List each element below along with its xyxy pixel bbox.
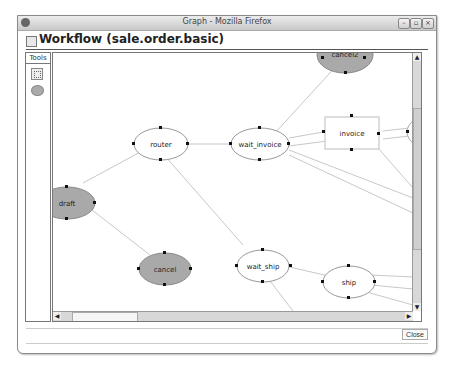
vertical-scrollbar[interactable]: ▲ ▼ [412,53,421,311]
svg-text:ship: ship [342,279,357,287]
vertical-scroll-thumb[interactable] [413,108,422,250]
workflow-icon [26,36,37,47]
scroll-up-arrow[interactable]: ▲ [413,53,421,61]
footer-divider [26,328,428,329]
node-invoice[interactable]: invoice [325,117,379,149]
svg-text:cancel2: cancel2 [331,53,358,59]
svg-text:invoice: invoice [340,130,365,138]
bottom-divider [26,343,428,344]
node-draft[interactable]: draft [53,187,95,219]
node-cancel[interactable]: cancel [139,253,191,285]
page-title: Workflow (sale.order.basic) [39,32,224,46]
close-button[interactable]: Close [402,329,428,340]
window-titlebar: Graph - Mozilla Firefox – ▫ × [18,16,436,31]
workflow-header: Workflow (sale.order.basic) [26,32,428,50]
horizontal-scrollbar[interactable]: ◀ ▶ [53,311,413,321]
scroll-right-arrow[interactable]: ▶ [405,312,413,320]
close-window-button[interactable]: × [422,18,434,29]
workflow-graph[interactable]: cancel2 draft router wait_invoice invoic… [53,53,413,311]
scroll-down-arrow[interactable]: ▼ [413,303,421,311]
maximize-button[interactable]: ▫ [410,18,422,29]
node-router[interactable]: router [134,128,188,160]
workflow-canvas[interactable]: cancel2 draft router wait_invoice invoic… [52,52,422,322]
tools-label: Tools [26,53,50,64]
state-tool-icon[interactable] [31,85,44,96]
window-title: Graph - Mozilla Firefox [18,17,436,26]
node-wait-ship[interactable]: wait_ship [237,250,289,282]
svg-text:wait_ship: wait_ship [247,263,280,271]
minimize-button[interactable]: – [398,18,410,29]
tools-panel: Tools [25,52,51,322]
svg-text:draft: draft [59,200,76,208]
svg-text:router: router [150,141,171,149]
svg-text:cancel: cancel [154,266,177,274]
scroll-left-arrow[interactable]: ◀ [53,312,61,320]
horizontal-scroll-thumb[interactable] [72,312,138,322]
svg-text:wait_invoice: wait_invoice [238,141,281,149]
select-tool-icon[interactable] [31,68,43,80]
node-wait-invoice[interactable]: wait_invoice [231,128,289,160]
browser-window: Graph - Mozilla Firefox – ▫ × Workflow (… [17,15,437,354]
node-ship[interactable]: ship [323,266,375,298]
